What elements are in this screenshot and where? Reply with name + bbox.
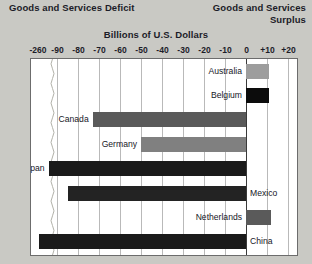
bar-label-mexico: Mexico (246, 186, 277, 201)
chart-root: Goods and Services Deficit Goods and Ser… (0, 0, 312, 264)
surplus-title-line2: Surplus (270, 14, 306, 25)
x-tick-label: -40 (156, 45, 168, 55)
gridline (57, 59, 58, 255)
x-tick-label: -70 (93, 45, 105, 55)
x-tick-label: -30 (177, 45, 189, 55)
bar-belgium (246, 88, 269, 103)
gridline (183, 59, 184, 255)
bar-mexico (68, 186, 247, 201)
bar-label-australia: Australia (209, 64, 246, 79)
gridline (141, 59, 142, 255)
bar-netherlands (246, 210, 271, 225)
x-tick-label: -260 (29, 45, 46, 55)
x-tick-label: +10 (260, 45, 274, 55)
bar-label-germany: Germany (102, 137, 141, 152)
gridline (288, 59, 289, 255)
x-tick-label: -90 (51, 45, 63, 55)
bar-japan (49, 161, 246, 176)
x-tick-label: -80 (72, 45, 84, 55)
axis-break-icon (49, 59, 56, 255)
x-tick-label: -10 (219, 45, 231, 55)
gridline (204, 59, 205, 255)
x-tick-label: -20 (198, 45, 210, 55)
gridline (162, 59, 163, 255)
axis-units-title: Billions of U.S. Dollars (0, 29, 312, 40)
gridline (120, 59, 121, 255)
plot-inner: AustraliaBelgiumCanadaGermanyJapanMexico… (31, 59, 297, 255)
bar-china (39, 234, 246, 249)
bar-label-japan: Japan (31, 161, 49, 176)
x-axis-tick-labels: -260-90-80-70-60-50-40-30-20-100+10+20 (0, 45, 312, 57)
bar-label-belgium: Belgium (211, 88, 246, 103)
bar-canada (93, 112, 246, 127)
bar-label-canada: Canada (59, 112, 93, 127)
surplus-title-line1: Goods and Services (213, 2, 306, 13)
deficit-title: Goods and Services Deficit (9, 2, 135, 13)
gridline (99, 59, 100, 255)
x-tick-label: -50 (135, 45, 147, 55)
x-tick-label: 0 (244, 45, 249, 55)
bar-germany (141, 137, 246, 152)
x-tick-label: -60 (114, 45, 126, 55)
bar-label-china: China (246, 234, 272, 249)
bar-label-netherlands: Netherlands (196, 210, 246, 225)
bar-australia (246, 64, 269, 79)
x-tick-label: +20 (281, 45, 295, 55)
plot-area: AustraliaBelgiumCanadaGermanyJapanMexico… (30, 58, 298, 256)
gridline (78, 59, 79, 255)
